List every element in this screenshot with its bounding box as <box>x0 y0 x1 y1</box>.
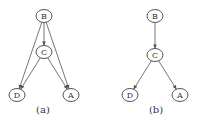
diagram-caption: (a) <box>36 104 50 115</box>
edge-c-to-d <box>134 61 152 89</box>
node-label: D <box>127 91 133 100</box>
node-label: D <box>14 91 20 100</box>
node-d: D <box>122 89 138 102</box>
node-d: D <box>9 89 25 102</box>
edge-c-to-d <box>21 58 41 89</box>
node-c: C <box>36 46 52 59</box>
node-label: C <box>152 51 158 60</box>
node-label: B <box>41 12 47 21</box>
node-label: C <box>41 48 47 57</box>
diagram-b: BCDA(b) <box>122 10 188 116</box>
node-a: A <box>172 89 188 102</box>
node-c: C <box>147 49 163 62</box>
diagram-caption: (b) <box>149 104 163 115</box>
node-label: A <box>176 91 183 100</box>
diagram-canvas: BCDA(a) BCDA(b) <box>0 0 202 124</box>
edge-c-to-a <box>48 58 68 89</box>
node-label: A <box>67 91 74 100</box>
diagram-a: BCDA(a) <box>9 10 79 116</box>
node-label: B <box>152 12 158 21</box>
node-b: B <box>36 10 52 23</box>
node-a: A <box>63 89 79 102</box>
edge-c-to-a <box>159 61 177 89</box>
node-b: B <box>147 10 163 23</box>
